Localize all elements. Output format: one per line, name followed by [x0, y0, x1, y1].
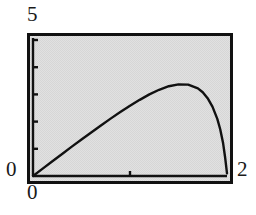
y-axis-min-label: 0	[6, 159, 17, 180]
x-axis-min-label: 0	[27, 182, 38, 203]
plot-canvas	[30, 36, 230, 181]
data-curve	[33, 84, 227, 176]
y-axis-max-label: 5	[27, 4, 38, 25]
plot-frame	[27, 33, 233, 184]
plot-figure: 5 0 0 2	[0, 0, 256, 215]
x-axis-max-label: 2	[237, 159, 248, 180]
